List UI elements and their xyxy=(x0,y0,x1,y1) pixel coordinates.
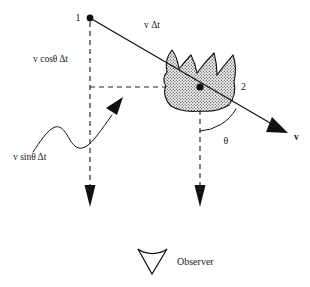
label-theta: θ xyxy=(224,135,229,146)
point-one-dot xyxy=(87,15,94,22)
label-v-delta-t: v Δt xyxy=(144,20,160,30)
label-point-one: 1 xyxy=(76,12,81,23)
label-velocity: v xyxy=(294,132,299,142)
label-v-sin-theta-delta-t: v sinθ Δt xyxy=(13,152,47,162)
background xyxy=(0,0,310,287)
label-v-cos-theta-delta-t: v cosθ Δt xyxy=(33,54,68,64)
diagram-canvas: 1 2 v Δt v cosθ Δt v sinθ Δt θ v Observe… xyxy=(0,0,310,287)
label-observer: Observer xyxy=(177,256,214,267)
aberration-diagram-svg: 1 2 v Δt v cosθ Δt v sinθ Δt θ v Observe… xyxy=(0,0,310,287)
point-two-dot xyxy=(196,83,203,90)
label-point-two: 2 xyxy=(241,81,246,92)
